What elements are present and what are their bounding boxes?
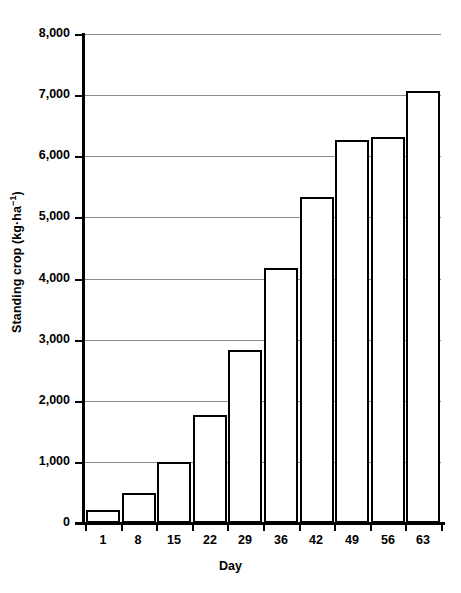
x-axis-tick-label: 42: [296, 533, 336, 547]
gridline: [85, 95, 441, 96]
bar: [157, 462, 191, 523]
bar: [406, 91, 440, 523]
y-axis-tick-label: 6,000: [0, 148, 70, 162]
y-axis-tick-label: 1,000: [0, 454, 70, 468]
y-axis-tick: [75, 156, 83, 158]
x-axis-tick: [156, 522, 158, 531]
x-axis-tick-label: 29: [225, 533, 265, 547]
bar: [86, 510, 120, 523]
y-axis-tick-label: 3,000: [0, 332, 70, 346]
y-axis-tick: [75, 340, 83, 342]
x-axis-tick-label: 63: [403, 533, 443, 547]
bar-chart-figure: Standing crop (kg·ha−1) 01,0002,0003,000…: [0, 0, 461, 593]
bar: [193, 415, 227, 523]
x-axis-tick: [405, 522, 407, 531]
x-axis-tick-label: 49: [332, 533, 372, 547]
x-axis-tick: [370, 522, 372, 531]
y-axis-tick: [75, 523, 83, 525]
bar: [371, 137, 405, 523]
x-axis-tick: [299, 522, 301, 531]
x-axis-tick: [227, 522, 229, 531]
x-axis-tick: [192, 522, 194, 531]
x-axis-tick-label: 56: [368, 533, 408, 547]
x-axis-tick: [121, 522, 123, 531]
bar: [335, 140, 369, 523]
y-axis-title-exponent: −1: [8, 195, 18, 205]
x-axis-title: Day: [0, 559, 461, 573]
y-axis-tick-label: 0: [0, 515, 70, 529]
x-axis-tick-label: 1: [83, 533, 123, 547]
bar: [122, 493, 156, 523]
y-axis-tick: [75, 462, 83, 464]
x-axis-tick-label: 36: [261, 533, 301, 547]
bar: [300, 197, 334, 523]
y-axis-title-paren: ): [10, 191, 24, 195]
y-axis-tick: [75, 217, 83, 219]
x-axis-tick: [263, 522, 265, 531]
y-axis-tick-label: 4,000: [0, 271, 70, 285]
y-axis-tick-label: 2,000: [0, 393, 70, 407]
y-axis-tick: [75, 279, 83, 281]
x-axis-tick-end: [441, 522, 443, 531]
y-axis-title-text: Standing crop (kg·ha: [10, 206, 24, 333]
y-axis-tick: [75, 95, 83, 97]
y-axis-tick: [75, 401, 83, 403]
bar: [228, 350, 262, 523]
bar: [264, 268, 298, 523]
y-axis-tick-label: 7,000: [0, 87, 70, 101]
gridline: [85, 34, 441, 35]
x-axis-tick-label: 8: [118, 533, 158, 547]
y-axis-tick-label: 8,000: [0, 26, 70, 40]
x-axis-tick: [85, 522, 87, 531]
x-axis-tick-label: 22: [190, 533, 230, 547]
x-axis-tick-label: 15: [154, 533, 194, 547]
x-axis-tick: [334, 522, 336, 531]
y-axis-tick: [75, 34, 83, 36]
y-axis-tick-label: 5,000: [0, 209, 70, 223]
